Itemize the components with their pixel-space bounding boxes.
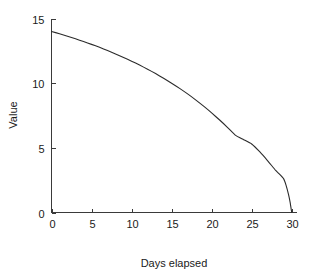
x-axis-tick-label: 30 xyxy=(286,218,298,230)
y-axis-tick-label: 0 xyxy=(38,208,44,220)
x-axis-tick-label: 10 xyxy=(126,218,138,230)
x-axis-tick-label: 5 xyxy=(89,218,95,230)
y-axis-tick-label: 15 xyxy=(32,14,44,26)
chart-figure: 051015 051015202530 Days elapsed Value xyxy=(0,0,311,276)
line-chart: 051015 051015202530 Days elapsed Value xyxy=(0,0,311,276)
x-axis-tick-label: 0 xyxy=(49,218,55,230)
x-axis-tick-label: 15 xyxy=(166,218,178,230)
y-axis-tick-label: 10 xyxy=(32,78,44,90)
y-axis-tick-label: 5 xyxy=(38,143,44,155)
x-axis-tick-label: 25 xyxy=(246,218,258,230)
x-axis-title: Days elapsed xyxy=(141,257,208,269)
y-axis-title: Value xyxy=(7,101,19,128)
chart-background xyxy=(0,0,311,276)
x-axis-tick-label: 20 xyxy=(206,218,218,230)
